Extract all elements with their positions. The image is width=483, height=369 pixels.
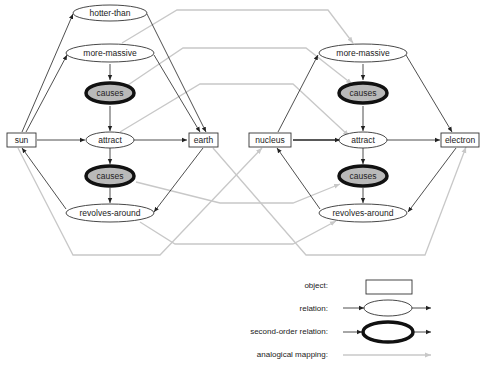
svg-text:more-massive: more-massive bbox=[83, 48, 137, 58]
node-right-causes-lower: causes bbox=[339, 166, 387, 186]
svg-text:object:: object: bbox=[304, 281, 328, 290]
svg-text:causes: causes bbox=[350, 171, 377, 181]
svg-text:nucleus: nucleus bbox=[255, 135, 284, 145]
node-earth: earth bbox=[189, 133, 218, 147]
mapping-revolves-around bbox=[140, 221, 336, 244]
node-left-more-massive: more-massive bbox=[66, 44, 154, 62]
node-right-more-massive: more-massive bbox=[319, 44, 407, 62]
svg-text:causes: causes bbox=[350, 88, 377, 98]
svg-text:revolves-around: revolves-around bbox=[80, 208, 141, 218]
node-nucleus: nucleus bbox=[249, 133, 291, 147]
svg-text:attract: attract bbox=[98, 135, 122, 145]
legend-analogical-mapping: analogical mapping: bbox=[257, 350, 431, 359]
svg-text:hotter-than: hotter-than bbox=[89, 8, 130, 18]
node-right-causes-upper: causes bbox=[339, 83, 387, 103]
node-hotter-than: hotter-than bbox=[73, 5, 147, 21]
node-left-attract: attract bbox=[86, 132, 134, 148]
mapping-more-massive bbox=[122, 10, 353, 43]
node-left-causes-upper: causes bbox=[86, 83, 134, 103]
legend-second-order-relation: second-order relation: bbox=[250, 322, 431, 342]
mapping-causes-lower bbox=[136, 182, 340, 203]
svg-text:revolves-around: revolves-around bbox=[333, 208, 394, 218]
svg-text:attract: attract bbox=[351, 135, 375, 145]
legend: object: relation: second-order relation:… bbox=[250, 280, 431, 359]
svg-text:causes: causes bbox=[97, 171, 124, 181]
svg-text:relation:: relation: bbox=[300, 304, 328, 313]
legend-relation: relation: bbox=[300, 300, 431, 316]
node-right-revolves-around: revolves-around bbox=[319, 204, 407, 222]
svg-text:sun: sun bbox=[15, 135, 29, 145]
node-sun: sun bbox=[7, 133, 36, 147]
node-left-causes-lower: causes bbox=[86, 166, 134, 186]
legend-object: object: bbox=[304, 280, 412, 294]
svg-text:second-order relation:: second-order relation: bbox=[250, 327, 328, 336]
mapping-sun-nucleus bbox=[18, 148, 262, 255]
svg-text:electron: electron bbox=[445, 135, 476, 145]
mapping-attract bbox=[120, 84, 349, 136]
svg-text:more-massive: more-massive bbox=[336, 48, 390, 58]
node-electron: electron bbox=[441, 133, 479, 147]
node-left-revolves-around: revolves-around bbox=[66, 204, 154, 222]
mapping-causes-upper bbox=[128, 48, 352, 85]
node-right-attract: attract bbox=[339, 132, 387, 148]
analogy-diagram: hotter-than more-massive causes sun attr… bbox=[0, 0, 483, 369]
svg-text:earth: earth bbox=[194, 135, 214, 145]
mapping-earth-electron bbox=[213, 147, 466, 255]
svg-text:analogical mapping:: analogical mapping: bbox=[257, 350, 328, 359]
svg-text:causes: causes bbox=[97, 88, 124, 98]
